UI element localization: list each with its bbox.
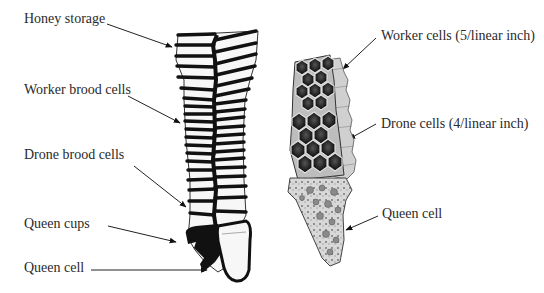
queen-cell-comb-shape <box>288 178 352 266</box>
queen-cell-shape <box>217 221 250 281</box>
arrow-queen-cell-right <box>346 216 378 230</box>
arrow-queen-cups <box>108 226 176 242</box>
arrow-worker-brood <box>128 96 180 123</box>
comb-face-view <box>288 55 356 266</box>
arrow-honey-storage <box>107 24 172 47</box>
comb-cross-section <box>176 31 258 281</box>
comb-diagram <box>0 0 544 293</box>
arrow-drone-brood <box>134 166 186 207</box>
arrow-worker-cells <box>343 38 376 69</box>
